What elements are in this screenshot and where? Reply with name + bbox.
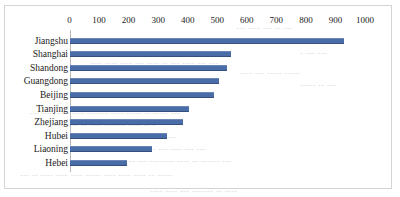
category-label: Jiangshu	[35, 36, 68, 46]
x-tick-label: 0	[67, 15, 72, 25]
x-tick-label: 700	[270, 15, 284, 25]
bar	[70, 106, 189, 112]
x-tick-label: 1000	[356, 15, 374, 25]
bar	[70, 146, 152, 152]
x-tick-label: 100	[92, 15, 106, 25]
category-label: Liaoning	[34, 144, 68, 154]
category-label: Shanghai	[33, 49, 68, 59]
bar	[70, 133, 167, 139]
category-label: Hubei	[45, 131, 68, 141]
category-label: Hebei	[45, 158, 68, 168]
bar	[70, 65, 227, 71]
x-tick-label: 400	[181, 15, 195, 25]
bar	[70, 119, 183, 125]
category-label: Tianjing	[36, 104, 68, 114]
bar	[70, 38, 345, 44]
bar	[70, 51, 231, 57]
bar	[70, 160, 127, 166]
bar	[70, 78, 219, 84]
bar-chart: 01002003004005006007008009001000 Jiangsh…	[0, 0, 400, 197]
x-tick-label: 300	[151, 15, 165, 25]
category-label: Beijing	[40, 90, 68, 100]
x-tick-label: 800	[299, 15, 313, 25]
category-label: Shandong	[30, 63, 68, 73]
x-tick-label: 500	[211, 15, 225, 25]
x-tick-label: 600	[240, 15, 254, 25]
category-label: Zhejiang	[34, 117, 68, 127]
x-tick-label: 200	[122, 15, 136, 25]
category-label: Guangdong	[24, 76, 68, 86]
bar	[70, 92, 214, 98]
x-tick-label: 900	[329, 15, 343, 25]
